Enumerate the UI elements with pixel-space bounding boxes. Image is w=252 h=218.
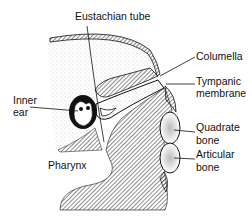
label-articular-1: Articular bbox=[196, 149, 235, 160]
label-columella: Columella bbox=[196, 51, 243, 62]
quadrate-bone-shape bbox=[160, 112, 180, 144]
anatomy-drawing bbox=[0, 0, 252, 218]
label-quadrate-1: Quadrate bbox=[196, 122, 240, 133]
label-quadrate-2: bone bbox=[196, 135, 219, 146]
label-articular-2: bone bbox=[196, 162, 219, 173]
label-inner-ear-2: ear bbox=[13, 107, 28, 118]
label-inner-ear-1: Inner bbox=[13, 95, 37, 106]
columella-leader bbox=[160, 57, 195, 76]
label-pharynx: Pharynx bbox=[48, 160, 87, 171]
label-tympanic-1: Tympanic bbox=[196, 76, 241, 87]
label-eustachian-tube: Eustachian tube bbox=[75, 11, 150, 22]
middle-ear-diagram: Eustachian tube Columella Tympanic membr… bbox=[0, 0, 252, 218]
label-tympanic-2: membrane bbox=[196, 88, 246, 99]
